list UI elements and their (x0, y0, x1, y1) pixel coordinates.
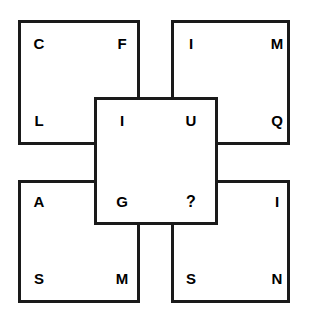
letter-cell-br-s: S (182, 271, 200, 286)
letter-cell-mid-g: G (113, 194, 131, 209)
letter-cell-bl-s: S (30, 271, 48, 286)
letter-cell-bl-a: A (30, 194, 48, 209)
letter-square-puzzle: C F L I I M U Q A G S M ? I S N (0, 0, 309, 315)
letter-cell-br-i: I (268, 194, 286, 209)
letter-cell-tl-l: L (30, 113, 48, 128)
letter-cell-mid-i: I (113, 113, 131, 128)
letter-cell-tl-f: F (113, 36, 131, 51)
letter-cell-tr-m: M (268, 36, 286, 51)
letter-cell-mid-missing: ? (182, 194, 200, 210)
letter-cell-bl-m: M (113, 271, 131, 286)
letter-cell-mid-u: U (182, 113, 200, 128)
letter-cell-tr-i: I (182, 36, 200, 51)
letter-cell-br-n: N (268, 271, 286, 286)
letter-cell-tl-c: C (30, 36, 48, 51)
letter-cell-tr-q: Q (268, 113, 286, 128)
